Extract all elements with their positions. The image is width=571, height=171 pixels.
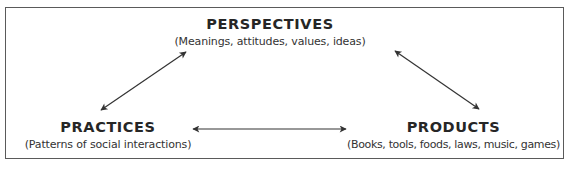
arrow-practices-perspectives — [101, 52, 186, 110]
practices-subtitle: (Patterns of social interactions) — [8, 138, 208, 152]
node-products: PRODUCTS (Books, tools, foods, laws, mus… — [340, 119, 567, 152]
products-subtitle: (Books, tools, foods, laws, music, games… — [340, 138, 567, 152]
practices-title: PRACTICES — [8, 119, 208, 135]
products-title: PRODUCTS — [340, 119, 567, 135]
node-practices: PRACTICES (Patterns of social interactio… — [8, 119, 208, 152]
perspectives-title: PERSPECTIVES — [170, 16, 370, 32]
node-perspectives: PERSPECTIVES (Meanings, attitudes, value… — [170, 16, 370, 49]
arrow-perspectives-products — [395, 51, 479, 109]
perspectives-subtitle: (Meanings, attitudes, values, ideas) — [170, 35, 370, 49]
